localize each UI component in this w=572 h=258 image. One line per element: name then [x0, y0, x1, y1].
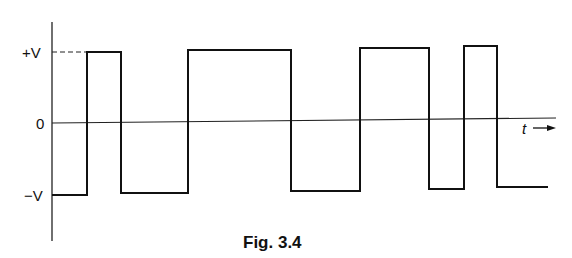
figure-caption: Fig. 3.4 [243, 233, 302, 252]
waveform-figure: +V 0 −V t Fig. 3.4 [0, 0, 572, 258]
zero-label: 0 [36, 115, 44, 132]
arrow-right-icon [533, 125, 556, 131]
x-axis [52, 118, 556, 123]
minus-v-label: −V [24, 187, 43, 204]
t-label: t [522, 120, 527, 137]
plus-v-label: +V [22, 44, 41, 61]
